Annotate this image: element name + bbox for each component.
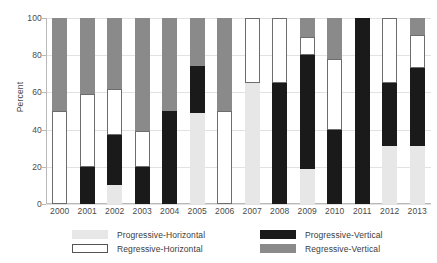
legend-label: Progressive-Horizontal (117, 230, 205, 240)
x-axis-tick-label: 2013 (408, 206, 427, 216)
x-axis-tick-label: 2005 (188, 206, 207, 216)
bar-segment[interactable] (410, 35, 425, 68)
legend-item[interactable]: Regressive-Vertical (260, 243, 380, 254)
bar-stack (245, 18, 260, 204)
bar-segment[interactable] (162, 111, 177, 204)
x-axis-tick-label: 2008 (270, 206, 289, 216)
bar-segment[interactable] (190, 66, 205, 113)
bar-stack (107, 18, 122, 204)
chart-legend: Progressive-HorizontalRegressive-Horizon… (72, 229, 402, 257)
bar-stack (382, 18, 397, 204)
legend-label: Regressive-Vertical (305, 244, 380, 254)
bar-segment[interactable] (52, 111, 67, 204)
bar-column[interactable] (107, 18, 122, 204)
bar-column[interactable] (135, 18, 150, 204)
bar-segment[interactable] (272, 18, 287, 83)
x-axis-tick-label: 2004 (160, 206, 179, 216)
y-axis-tick-label: 60 (32, 87, 42, 97)
bar-stack (327, 18, 342, 204)
bar-segment[interactable] (245, 83, 260, 204)
y-axis-tick-label: 100 (27, 13, 42, 23)
bar-column[interactable] (382, 18, 397, 204)
bar-column[interactable] (52, 18, 67, 204)
bar-stack (300, 18, 315, 204)
bar-segment[interactable] (382, 146, 397, 204)
bar-segment[interactable] (52, 18, 67, 111)
bar-column[interactable] (190, 18, 205, 204)
legend-label: Regressive-Horizontal (117, 244, 203, 254)
bar-segment[interactable] (300, 169, 315, 204)
bar-segment[interactable] (135, 131, 150, 166)
bar-segment[interactable] (107, 89, 122, 136)
x-axis-tick-labels: 2000200120022003200420052006200720082009… (46, 206, 431, 222)
bar-segment[interactable] (80, 167, 95, 204)
bar-segment[interactable] (327, 18, 342, 59)
bar-column[interactable] (245, 18, 260, 204)
legend-swatch (260, 230, 296, 239)
x-axis-tick-label: 2002 (105, 206, 124, 216)
bar-segment[interactable] (107, 135, 122, 185)
legend-item[interactable]: Progressive-Vertical (260, 229, 383, 240)
bar-segment[interactable] (410, 146, 425, 204)
bar-column[interactable] (355, 18, 370, 204)
bar-segment[interactable] (382, 18, 397, 83)
y-axis-tick-label: 80 (32, 50, 42, 60)
bar-stack (410, 18, 425, 204)
bar-segment[interactable] (355, 18, 370, 204)
x-axis-tick-label: 2007 (243, 206, 262, 216)
legend-swatch (260, 244, 296, 253)
x-axis-tick-label: 2000 (50, 206, 69, 216)
bar-segment[interactable] (80, 94, 95, 167)
bar-segment[interactable] (382, 83, 397, 146)
bar-column[interactable] (300, 18, 315, 204)
bar-segment[interactable] (107, 185, 122, 204)
legend-label: Progressive-Vertical (305, 230, 383, 240)
x-axis-tick-label: 2011 (353, 206, 372, 216)
bar-segment[interactable] (135, 167, 150, 204)
bar-segment[interactable] (245, 18, 260, 83)
y-axis-tick-label: 40 (32, 125, 42, 135)
bar-segment[interactable] (217, 18, 232, 111)
x-axis-tick-label: 2010 (325, 206, 344, 216)
y-axis-tick-label: 20 (32, 162, 42, 172)
legend-item[interactable]: Regressive-Horizontal (72, 243, 203, 254)
bar-segment[interactable] (217, 111, 232, 204)
bar-segment[interactable] (135, 18, 150, 131)
x-axis-tick-label: 2001 (78, 206, 97, 216)
bar-stack (162, 18, 177, 204)
bar-segment[interactable] (190, 18, 205, 66)
bar-segment[interactable] (272, 83, 287, 204)
bar-stack (52, 18, 67, 204)
bar-segment[interactable] (327, 59, 342, 130)
bar-segment[interactable] (327, 130, 342, 204)
bar-segment[interactable] (300, 55, 315, 168)
bars-layer (46, 18, 431, 204)
bar-column[interactable] (217, 18, 232, 204)
bar-stack (217, 18, 232, 204)
bar-segment[interactable] (300, 18, 315, 37)
y-axis-tick (42, 204, 46, 205)
legend-item[interactable]: Progressive-Horizontal (72, 229, 205, 240)
gridline (46, 204, 431, 205)
bar-segment[interactable] (162, 18, 177, 111)
bar-segment[interactable] (410, 18, 425, 35)
bar-segment[interactable] (190, 113, 205, 204)
bar-column[interactable] (410, 18, 425, 204)
legend-swatch (72, 230, 108, 239)
bar-segment[interactable] (80, 18, 95, 94)
bar-segment[interactable] (300, 37, 315, 56)
bar-segment[interactable] (410, 68, 425, 146)
x-axis-tick-label: 2012 (380, 206, 399, 216)
x-axis-tick-label: 2009 (298, 206, 317, 216)
bar-stack (355, 18, 370, 204)
stacked-bar-chart: Percent 020406080100 2000200120022003200… (0, 0, 437, 263)
legend-swatch (72, 244, 108, 253)
bar-column[interactable] (80, 18, 95, 204)
bar-stack (190, 18, 205, 204)
bar-segment[interactable] (107, 18, 122, 89)
bar-column[interactable] (272, 18, 287, 204)
bar-stack (135, 18, 150, 204)
bar-column[interactable] (327, 18, 342, 204)
x-axis-tick-label: 2006 (215, 206, 234, 216)
bar-column[interactable] (162, 18, 177, 204)
